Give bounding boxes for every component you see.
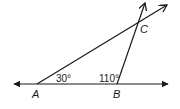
point-label-c: C <box>140 23 148 35</box>
angle-label-b: 110° <box>99 73 119 84</box>
point-label-b: B <box>113 88 120 100</box>
geometry-diagram: A B C 30° 110° <box>0 0 180 109</box>
point-label-a: A <box>31 88 39 100</box>
ray-bc <box>117 3 145 84</box>
angle-label-a: 30° <box>56 73 71 84</box>
